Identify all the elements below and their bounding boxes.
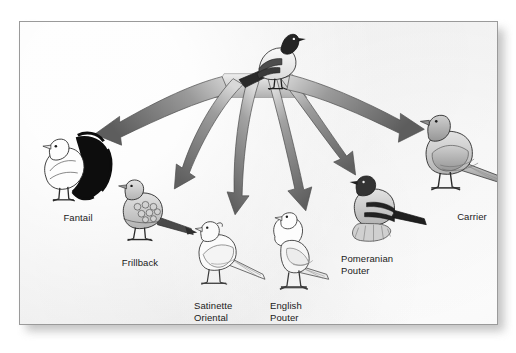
figure-root: Fantail Frillback SatinetteOrientalFrill… (0, 0, 516, 353)
label-carrier: Carrier (443, 211, 498, 223)
label-pomeranian-pouter: PomeranianPouter (341, 253, 431, 276)
diagram-plate: Fantail Frillback SatinetteOrientalFrill… (19, 21, 498, 325)
label-frillback: Frillback (108, 257, 172, 269)
label-english-pouter: EnglishPouter (270, 300, 342, 323)
label-satinette-oriental-frill: SatinetteOrientalFrill (194, 300, 272, 325)
label-fantail: Fantail (48, 212, 108, 224)
label-layer: Fantail Frillback SatinetteOrientalFrill… (20, 22, 497, 324)
